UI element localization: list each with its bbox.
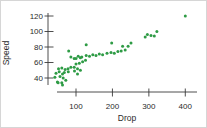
data-point: [155, 30, 158, 33]
data-point: [110, 51, 113, 54]
data-point: [110, 42, 113, 45]
x-axis-title: Drop: [118, 113, 137, 123]
data-point: [63, 71, 66, 74]
data-point: [144, 35, 147, 38]
data-point: [153, 35, 156, 38]
data-point: [78, 62, 81, 65]
data-point: [57, 67, 60, 70]
data-point: [80, 56, 83, 59]
x-tick-label: 300: [142, 102, 156, 111]
data-point: [73, 57, 76, 60]
data-point: [88, 55, 91, 58]
y-tick-label: 40: [34, 74, 43, 83]
data-point: [67, 67, 70, 70]
x-tick-label: 200: [106, 102, 120, 111]
data-point: [79, 69, 82, 72]
axes: 100200300400406080100120: [30, 12, 197, 111]
data-point: [113, 52, 116, 55]
data-point: [76, 73, 79, 76]
data-point: [77, 55, 80, 58]
data-point: [120, 49, 123, 52]
data-point: [124, 49, 127, 52]
y-tick-label: 100: [30, 27, 44, 36]
data-point: [55, 72, 58, 75]
data-point: [106, 52, 109, 55]
data-point: [95, 54, 98, 57]
data-point: [69, 56, 72, 59]
data-point: [59, 75, 62, 78]
data-point: [146, 33, 149, 36]
x-tick-label: 100: [69, 102, 83, 111]
data-point: [84, 59, 87, 62]
data-point: [98, 53, 101, 56]
y-tick-label: 80: [34, 43, 43, 52]
data-point: [67, 70, 70, 73]
data-point: [121, 45, 124, 48]
y-tick-label: 60: [34, 58, 43, 67]
data-point: [57, 81, 60, 84]
data-point: [184, 15, 187, 18]
data-point: [85, 54, 88, 57]
data-point: [101, 53, 104, 56]
scatter-plot: 100200300400406080100120 Drop Speed: [1, 1, 206, 127]
data-point: [53, 76, 56, 79]
data-points: [53, 15, 186, 87]
data-point: [130, 42, 133, 45]
data-point: [58, 70, 61, 73]
data-point: [62, 77, 65, 80]
data-point: [61, 84, 64, 87]
y-axis-title: Speed: [1, 40, 11, 65]
data-point: [64, 68, 67, 71]
data-point: [75, 63, 78, 66]
data-point: [73, 66, 76, 69]
data-point: [127, 45, 130, 48]
data-point: [60, 66, 63, 69]
data-point: [91, 53, 94, 56]
data-point: [73, 70, 76, 73]
data-point: [76, 67, 79, 70]
scatter-figure: 100200300400406080100120 Drop Speed: [0, 0, 207, 128]
x-tick-label: 400: [179, 102, 193, 111]
data-point: [69, 66, 72, 69]
data-point: [150, 34, 153, 37]
data-point: [64, 79, 67, 82]
data-point: [116, 50, 119, 53]
data-point: [67, 49, 70, 52]
data-point: [85, 43, 88, 46]
y-tick-label: 120: [30, 12, 44, 21]
data-point: [81, 60, 84, 63]
